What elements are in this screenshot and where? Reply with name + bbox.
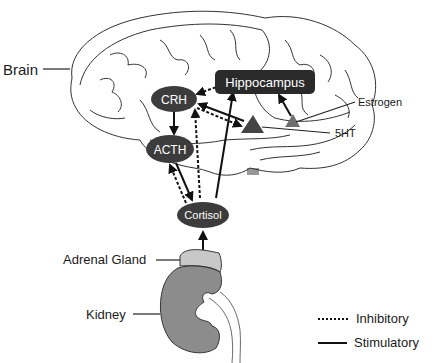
kidney-label: Kidney: [86, 307, 126, 322]
node-acth: ACTH: [146, 135, 194, 163]
estrogen-label: Estrogen: [358, 96, 402, 108]
node-hippocampus: Hippocampus: [215, 70, 315, 94]
arrow-acth-to-cortisol: [176, 163, 192, 200]
hpa-axis-diagram: Hippocampus CRH ACTH Cortisol Brain Estr…: [0, 0, 435, 363]
arrow-cortisol-to-crh: [195, 110, 200, 198]
arrow-estrogen-to-hippocampus: [279, 95, 291, 116]
brain-label: Brain: [3, 61, 38, 78]
legend-stimulatory-label: Stimulatory: [354, 335, 420, 350]
node-crh: CRH: [151, 86, 197, 112]
acth-label: ACTH: [154, 143, 187, 157]
legend: Inhibitory Stimulatory: [318, 311, 420, 350]
adrenal-gland-label: Adrenal Gland: [63, 252, 146, 267]
arrow-cortisol-to-hippocampus: [216, 93, 233, 198]
serotonin-label: 5HT: [335, 127, 356, 139]
kidney-illustration: [160, 250, 240, 363]
arrow-cortisol-to-acth: [170, 165, 186, 203]
node-cortisol: Cortisol: [177, 202, 229, 228]
crh-label: CRH: [161, 93, 187, 107]
serotonin-triangle-icon: [241, 115, 264, 133]
legend-inhibitory-label: Inhibitory: [356, 311, 409, 326]
hippocampus-label: Hippocampus: [225, 75, 305, 90]
cortisol-label: Cortisol: [184, 209, 221, 221]
